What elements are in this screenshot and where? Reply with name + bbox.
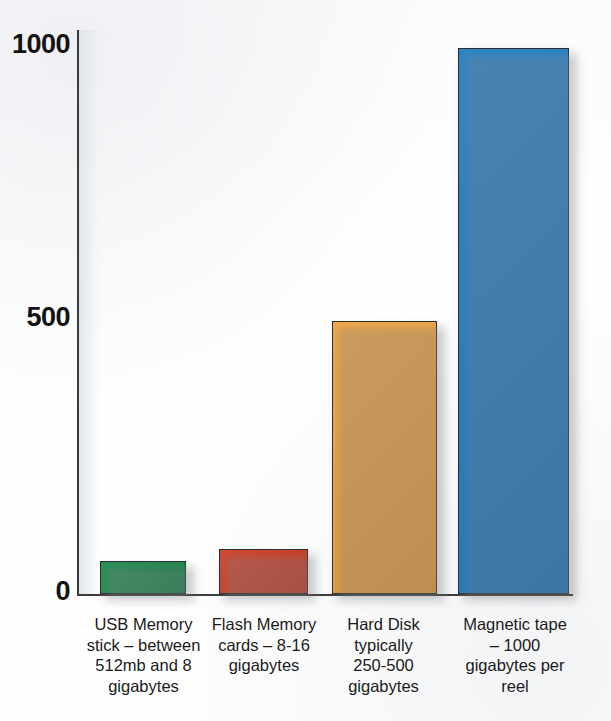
y-tick-label-500: 500 [0,304,70,331]
bar-fill-flash-memory-cards [220,550,307,593]
y-tick-label-0: 0 [0,578,70,605]
axis-glow [79,30,99,594]
bar-magnetic-tape[interactable] [458,48,569,594]
category-label-magnetic-tape: Magnetic tape – 1000 gigabytes per reel [441,614,589,696]
bar-fill-hard-disk [333,322,436,593]
bar-fill-usb-memory-stick [101,562,185,593]
category-label-flash-memory-cards: Flash Memory cards – 8-16 gigabytes [194,614,334,676]
bar-flash-memory-cards[interactable] [219,549,308,594]
category-label-hard-disk: Hard Disk typically 250-500 gigabytes [316,614,451,696]
bar-chart: 1000 500 0 USB Memory stick – between 51… [0,0,611,721]
y-axis-line [77,30,79,596]
bar-fill-magnetic-tape [459,49,568,593]
bar-usb-memory-stick[interactable] [100,561,186,594]
bar-hard-disk[interactable] [332,321,437,594]
y-tick-label-1000: 1000 [0,31,70,58]
plot-area: 1000 500 0 USB Memory stick – between 51… [0,0,611,721]
